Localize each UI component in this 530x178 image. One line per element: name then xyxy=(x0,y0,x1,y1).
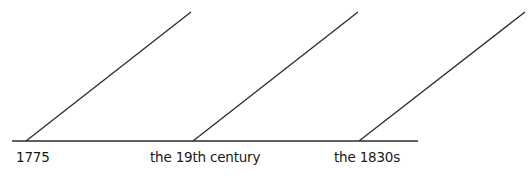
answer-line-1 xyxy=(26,12,191,141)
timeline-diagram xyxy=(0,0,530,178)
answer-line-2 xyxy=(193,12,358,141)
timeline-label-1830s: the 1830s xyxy=(334,149,400,165)
timeline-label-1775: 1775 xyxy=(16,149,50,165)
answer-line-3 xyxy=(359,12,525,141)
timeline-label-19th-century: the 19th century xyxy=(150,149,260,165)
